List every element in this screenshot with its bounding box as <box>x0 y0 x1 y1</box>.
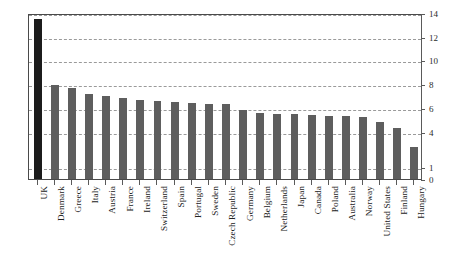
x-axis-label: France <box>126 186 135 212</box>
y-axis-label: 6 <box>429 104 434 113</box>
bar <box>102 96 110 179</box>
bar <box>171 102 179 179</box>
x-axis-label: Ireland <box>143 186 152 213</box>
x-axis-tick <box>208 180 209 185</box>
x-axis-label: Australia <box>348 186 357 221</box>
x-axis-label: UK <box>40 186 49 199</box>
y-axis-label: 1 <box>429 164 434 173</box>
x-axis-label: Denmark <box>57 186 66 221</box>
x-axis-tick <box>105 180 106 185</box>
x-axis-tick <box>156 180 157 185</box>
x-axis-tick <box>396 180 397 185</box>
x-axis-label: Greece <box>74 186 83 213</box>
x-axis-tick <box>294 180 295 185</box>
plot-area <box>28 14 422 180</box>
x-axis-label: Poland <box>331 186 340 212</box>
y-axis-tick <box>421 85 425 86</box>
x-axis-label: Norway <box>365 186 374 216</box>
x-axis-tick <box>362 180 363 185</box>
bar <box>410 147 418 179</box>
y-axis-label: 0 <box>429 176 434 185</box>
x-axis-tick <box>174 180 175 185</box>
y-axis-label: 12 <box>429 33 438 42</box>
x-axis-tick <box>88 180 89 185</box>
bar <box>119 98 127 179</box>
bar <box>291 114 299 179</box>
x-axis-tick <box>311 180 312 185</box>
bar-chart: 01468101214 UKDenmarkGreeceItalyAustriaF… <box>0 0 451 271</box>
bar <box>51 85 59 179</box>
bar <box>359 117 367 179</box>
bar <box>154 101 162 179</box>
x-axis-tick <box>71 180 72 185</box>
x-axis-label: Belgium <box>263 186 272 218</box>
bars-group <box>29 15 421 179</box>
x-axis-label: Spain <box>177 186 186 207</box>
bar <box>239 110 247 179</box>
x-axis-tick <box>242 180 243 185</box>
bar <box>205 104 213 179</box>
bar <box>68 88 76 179</box>
x-axis-tick <box>54 180 55 185</box>
x-axis-label: Germany <box>246 186 255 221</box>
y-axis-label: 8 <box>429 81 434 90</box>
bar <box>85 94 93 179</box>
y-axis: 01468101214 <box>421 14 451 180</box>
x-axis-tick <box>122 180 123 185</box>
x-axis-label: Canada <box>314 186 323 214</box>
y-axis-tick <box>421 38 425 39</box>
x-axis-tick <box>191 180 192 185</box>
bar <box>222 104 230 179</box>
y-axis-tick <box>421 14 425 15</box>
x-axis-label: Austria <box>108 186 117 214</box>
bar <box>273 114 281 179</box>
x-axis-label: Portugal <box>194 186 203 218</box>
x-axis-ticks <box>28 180 422 185</box>
x-axis-tick <box>379 180 380 185</box>
x-axis-tick <box>259 180 260 185</box>
bar <box>308 115 316 179</box>
x-axis-tick <box>276 180 277 185</box>
y-axis-tick <box>421 109 425 110</box>
x-axis-label: Sweden <box>211 186 220 216</box>
x-axis-label: Japan <box>297 186 306 207</box>
x-axis-label: Italy <box>91 186 100 203</box>
x-axis-tick <box>328 180 329 185</box>
y-axis-line <box>421 14 422 180</box>
y-axis-label: 14 <box>429 10 438 19</box>
bar <box>393 128 401 179</box>
bar <box>376 122 384 179</box>
bar <box>136 100 144 179</box>
y-axis-label: 10 <box>429 57 438 66</box>
y-axis-tick <box>421 133 425 134</box>
x-axis-tick <box>225 180 226 185</box>
x-axis-label: Switzerland <box>160 186 169 231</box>
x-axis-tick <box>413 180 414 185</box>
x-axis-label: Finland <box>400 186 409 215</box>
x-axis-label: Hungary <box>417 186 426 219</box>
bar <box>342 116 350 179</box>
y-axis-label: 4 <box>429 128 434 137</box>
y-axis-tick <box>421 168 425 169</box>
y-axis-tick <box>421 61 425 62</box>
x-axis-label: United States <box>383 186 392 237</box>
bar <box>34 19 42 179</box>
x-axis-tick <box>345 180 346 185</box>
bar <box>325 116 333 179</box>
bar <box>188 103 196 179</box>
x-axis-label: Netherlands <box>280 186 289 232</box>
bar <box>256 113 264 179</box>
x-axis-labels: UKDenmarkGreeceItalyAustriaFranceIreland… <box>28 186 422 271</box>
x-axis-label: Czech Republic <box>228 186 237 246</box>
x-axis-tick <box>37 180 38 185</box>
x-axis-tick <box>139 180 140 185</box>
